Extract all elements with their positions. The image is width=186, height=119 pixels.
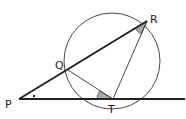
chord-QT	[68, 70, 113, 99]
angle-dot-P	[33, 95, 35, 97]
chord-RT	[113, 21, 147, 99]
secant-line-PR	[19, 21, 147, 99]
label-R: R	[150, 13, 158, 26]
geometry-diagram: P Q R T	[0, 0, 186, 119]
circle	[64, 13, 160, 109]
label-Q: Q	[55, 59, 64, 72]
label-P: P	[5, 98, 12, 111]
label-T: T	[107, 103, 115, 116]
